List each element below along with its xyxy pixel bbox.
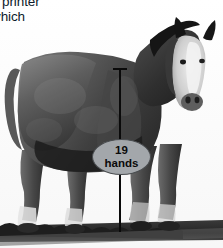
height-callout: 19 hands (92, 139, 151, 175)
horse-muzzle (181, 93, 203, 111)
horse-photo-svg (0, 0, 223, 248)
horse-eye-left (180, 60, 186, 65)
horse-nostril-left (185, 97, 190, 104)
horse-eye-right (199, 59, 205, 63)
body-text-line-2: vhich (0, 10, 114, 25)
horse-nostril-right (195, 97, 200, 103)
callout-value: 19 (115, 145, 128, 157)
document-page: mural artise (0, 0, 223, 248)
measurement-tick-icon (113, 68, 127, 70)
callout-unit: hands (105, 158, 139, 170)
body-text-fragment: r printer vhich (0, 0, 114, 24)
horse-photograph (0, 0, 223, 248)
